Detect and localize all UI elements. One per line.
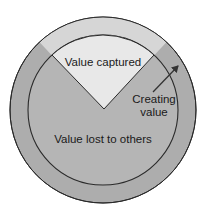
value-lost-label: Value lost to others — [54, 133, 152, 145]
value-creation-diagram: Value captured Creating value Value lost… — [0, 0, 207, 217]
creating-value-label-line1: Creating — [132, 93, 175, 105]
outer-ring-wedge-top — [20, 10, 186, 32]
value-captured-label: Value captured — [65, 56, 142, 68]
creating-value-label-line2: value — [140, 106, 168, 118]
